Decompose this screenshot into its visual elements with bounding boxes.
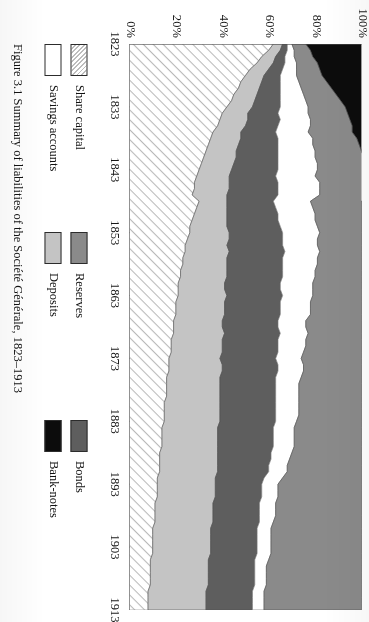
legend-column-3: Bonds Bank-notes (33, 420, 87, 608)
x-axis-label: 1863 (106, 283, 121, 308)
legend-swatch-deposits-icon (44, 232, 61, 264)
x-axis-label: 1843 (106, 157, 121, 182)
chart-plot-area: 0%20%40%60%80%100% 182318331843185318631… (129, 44, 361, 610)
legend-swatch-savings-accounts-icon (44, 44, 61, 76)
legend-swatch-reserves-icon (70, 232, 87, 264)
x-axis-label: 1883 (106, 409, 121, 434)
legend-swatch-bank-notes-icon (44, 420, 61, 452)
legend-swatch-share-capital-icon (70, 44, 87, 76)
figure-caption: Figure 3.1 Summary of liabilities of the… (9, 44, 24, 610)
y-axis-label: 40% (215, 2, 230, 38)
x-axis-label: 1873 (106, 346, 121, 371)
y-axis-label: 100% (354, 2, 369, 38)
legend-label-bank-notes: Bank-notes (45, 461, 60, 518)
figure-frame: 0%20%40%60%80%100% 182318331843185318631… (0, 0, 369, 622)
legend-item-savings-accounts[interactable]: Savings accounts (44, 44, 61, 232)
x-axis-label: 1853 (106, 220, 121, 245)
legend-item-bank-notes[interactable]: Bank-notes (44, 420, 61, 608)
figure-sheet: 0%20%40%60%80%100% 182318331843185318631… (0, 0, 369, 622)
chart-legend: Share capital Savings accounts Reserves … (33, 44, 87, 610)
y-axis-label: 20% (168, 2, 183, 38)
x-axis-label: 1893 (106, 472, 121, 497)
y-axis-label: 60% (261, 2, 276, 38)
legend-column-1: Share capital Savings accounts (33, 44, 87, 232)
legend-label-deposits: Deposits (45, 273, 60, 317)
legend-label-bonds: Bonds (71, 461, 86, 493)
legend-item-deposits[interactable]: Deposits (44, 232, 61, 420)
legend-column-2: Reserves Deposits (33, 232, 87, 420)
x-axis-label: 1913 (106, 598, 121, 622)
x-axis-label: 1823 (106, 32, 121, 57)
x-axis-label: 1903 (106, 535, 121, 560)
y-axis-label: 80% (308, 2, 323, 38)
legend-item-bonds[interactable]: Bonds (70, 420, 87, 608)
legend-label-share-capital: Share capital (71, 85, 86, 150)
legend-label-savings-accounts: Savings accounts (45, 85, 60, 171)
y-axis-label: 0% (122, 2, 137, 38)
legend-item-share-capital[interactable]: Share capital (70, 44, 87, 232)
stacked-area-chart (129, 44, 361, 610)
legend-swatch-bonds-icon (70, 420, 87, 452)
x-axis-label: 1833 (106, 94, 121, 119)
legend-label-reserves: Reserves (71, 273, 86, 318)
legend-item-reserves[interactable]: Reserves (70, 232, 87, 420)
